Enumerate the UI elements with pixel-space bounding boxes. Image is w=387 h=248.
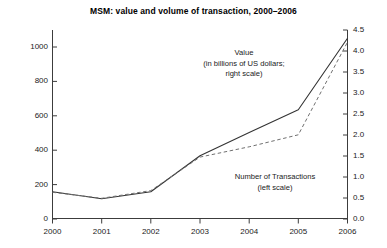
y-axis-right-label-3.5: 3.5 (353, 67, 364, 76)
y-axis-left-label-400: 400 (22, 145, 48, 154)
x-axis-label-2000: 2000 (33, 227, 73, 236)
y-axis-right-label-1.0: 1.0 (353, 172, 364, 181)
x-axis-label-2003: 2003 (180, 227, 220, 236)
annotation-value-line1: Value (173, 48, 315, 59)
y-axis-right-label-4.5: 4.5 (353, 25, 364, 34)
y-axis-right-label-3.0: 3.0 (353, 88, 364, 97)
y-axis-right-label-0.5: 0.5 (353, 193, 364, 202)
annotation-value-line3: right scale) (173, 69, 315, 80)
y-axis-right-label-0.0: 0.0 (353, 214, 364, 223)
y-axis-left-label-600: 600 (22, 111, 48, 120)
y-axis-left-label-800: 800 (22, 76, 48, 85)
annotation-transactions-series: Number of Transactions (left scale) (213, 172, 337, 193)
annotation-value-line2: (in billions of US dollars; (173, 59, 315, 70)
y-axis-right-ticks (343, 30, 348, 219)
y-axis-right-label-4.0: 4.0 (353, 46, 364, 55)
x-axis-label-2002: 2002 (131, 227, 171, 236)
y-axis-left-label-0: 0 (22, 214, 48, 223)
y-axis-left-ticks (53, 47, 58, 219)
annotation-transactions-line2: (left scale) (213, 183, 337, 194)
annotation-value-series: Value (in billions of US dollars; right … (173, 48, 315, 80)
x-axis-ticks (53, 219, 348, 224)
chart-plot-area (0, 0, 387, 248)
y-axis-right-label-2.0: 2.0 (353, 130, 364, 139)
y-axis-right-label-1.5: 1.5 (353, 151, 364, 160)
x-axis-label-2004: 2004 (229, 227, 269, 236)
chart-figure: MSM: value and volume of transaction, 20… (0, 0, 387, 248)
x-axis-label-2005: 2005 (278, 227, 318, 236)
y-axis-left-label-200: 200 (22, 180, 48, 189)
annotation-transactions-line1: Number of Transactions (213, 172, 337, 183)
y-axis-right-label-2.5: 2.5 (353, 109, 364, 118)
x-axis-label-2001: 2001 (82, 227, 122, 236)
x-axis-label-2006: 2006 (328, 227, 368, 236)
y-axis-left-label-1000: 1000 (16, 42, 48, 51)
